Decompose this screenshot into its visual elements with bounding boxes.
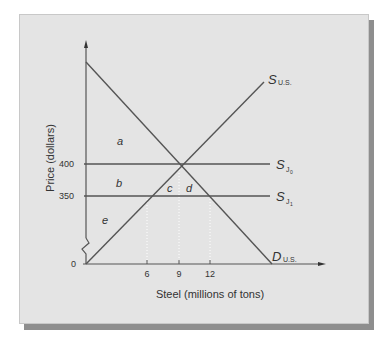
s-us-sub: U.S. — [278, 79, 292, 86]
s-j0-sub: J — [286, 166, 290, 173]
y-axis-arrow-icon — [84, 40, 88, 48]
x-tick-12: 12 — [205, 269, 215, 279]
y-tick-350: 350 — [59, 191, 74, 201]
region-d: d — [186, 182, 193, 194]
s-j1-sub2: 1 — [290, 201, 293, 207]
x-tick-9: 9 — [176, 269, 181, 279]
label-d-us: D U.S. — [272, 249, 297, 264]
s-us-main: S — [268, 72, 277, 87]
s-j1-main: S — [276, 189, 285, 204]
s-j0-sub2: 0 — [290, 169, 293, 175]
line-s-us — [86, 82, 264, 264]
d-us-sub: U.S. — [283, 256, 297, 263]
x-axis-arrow-icon — [318, 262, 326, 266]
y-axis-break-icon — [82, 238, 89, 264]
region-a: a — [117, 135, 123, 147]
y-tick-400: 400 — [59, 159, 74, 169]
region-c: c — [167, 182, 173, 194]
label-s-us: S U.S. — [268, 72, 292, 87]
region-e: e — [102, 214, 108, 226]
s-j1-sub: J — [286, 198, 290, 205]
region-b: b — [116, 177, 122, 189]
x-axis-title: Steel (millions of tons) — [156, 288, 264, 300]
chart-svg: 400 350 0 6 9 12 Steel (millions of tons… — [0, 0, 391, 340]
origin-label: 0 — [71, 259, 76, 269]
y-axis-title: Price (dollars) — [44, 124, 56, 192]
label-s-j0: S J 0 — [276, 157, 293, 175]
d-us-main: D — [272, 249, 281, 264]
label-s-j1: S J 1 — [276, 189, 293, 207]
s-j0-main: S — [276, 157, 285, 172]
x-tick-6: 6 — [144, 269, 149, 279]
